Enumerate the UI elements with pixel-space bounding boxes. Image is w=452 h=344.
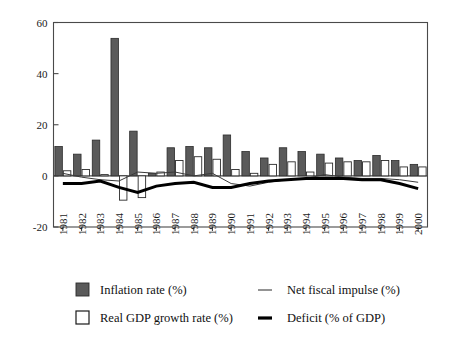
bar xyxy=(298,152,305,176)
bar xyxy=(101,175,108,176)
x-tick-label-1996: 1996 xyxy=(337,213,349,236)
x-tick-label-1983: 1983 xyxy=(94,213,106,236)
bar xyxy=(261,158,268,176)
y-tick-label: -20 xyxy=(33,221,48,233)
bar xyxy=(186,146,193,175)
x-tick-label-1998: 1998 xyxy=(375,213,387,236)
x-tick-label-2000: 2000 xyxy=(412,213,424,236)
bar xyxy=(373,155,380,175)
legend-entry-impulse: Net fiscal impulse (%) xyxy=(258,283,400,297)
bar xyxy=(269,164,276,176)
bar xyxy=(288,162,295,176)
bar xyxy=(194,157,201,176)
y-tick-label: 60 xyxy=(37,17,49,29)
bar xyxy=(354,161,361,176)
square-filled-icon xyxy=(76,283,89,296)
economic-indicators-chart: -200204060 19811982198319841985198619871… xyxy=(0,0,452,344)
x-tick-label-1989: 1989 xyxy=(206,213,218,236)
bar xyxy=(391,161,398,176)
bar xyxy=(111,38,118,176)
x-tick-label-1991: 1991 xyxy=(244,213,256,235)
bar xyxy=(92,140,99,176)
chart-legend: Inflation rate (%) Real GDP growth rate … xyxy=(76,283,400,325)
x-tick-label-1984: 1984 xyxy=(113,213,125,236)
bar xyxy=(419,167,426,176)
bar xyxy=(400,167,407,176)
legend-label-deficit: Deficit (% of GDP) xyxy=(287,311,385,325)
bar xyxy=(325,163,332,176)
x-tick-label-1999: 1999 xyxy=(393,213,405,236)
bar xyxy=(232,169,239,175)
bar xyxy=(279,148,286,176)
x-tick-label-1997: 1997 xyxy=(356,213,368,236)
x-tick-label-1995: 1995 xyxy=(319,213,331,236)
legend-label-gdp: Real GDP growth rate (%) xyxy=(100,311,233,325)
bar xyxy=(204,148,211,176)
bar xyxy=(130,131,137,176)
bar xyxy=(74,154,81,176)
bar xyxy=(213,159,220,176)
bar xyxy=(223,135,230,176)
bar xyxy=(242,152,249,176)
x-tick-label-1993: 1993 xyxy=(281,213,293,236)
bar xyxy=(363,162,370,176)
bar xyxy=(250,173,257,176)
plot-frame xyxy=(54,23,428,228)
x-tick-label-1988: 1988 xyxy=(188,213,200,236)
y-tick-label: 40 xyxy=(37,68,49,80)
legend-entry-gdp: Real GDP growth rate (%) xyxy=(76,311,233,325)
x-tick-label-1986: 1986 xyxy=(150,213,162,236)
x-tick-label-1987: 1987 xyxy=(169,213,181,236)
x-tick-label-1992: 1992 xyxy=(263,213,275,235)
square-open-icon xyxy=(76,311,89,324)
x-tick-label-1994: 1994 xyxy=(300,213,312,236)
bar xyxy=(381,161,388,176)
bar xyxy=(82,169,89,175)
bar xyxy=(55,146,62,175)
legend-label-inflation: Inflation rate (%) xyxy=(100,283,187,297)
bar xyxy=(410,164,417,176)
legend-label-impulse: Net fiscal impulse (%) xyxy=(287,283,400,297)
bar xyxy=(344,162,351,176)
x-tick-label-1982: 1982 xyxy=(76,213,88,235)
bar xyxy=(317,154,324,176)
chart-figure: -200204060 19811982198319841985198619871… xyxy=(0,0,452,344)
x-tick-label-1981: 1981 xyxy=(57,213,69,235)
x-tick-label-1985: 1985 xyxy=(132,213,144,236)
bar xyxy=(306,172,313,176)
legend-entry-inflation: Inflation rate (%) xyxy=(76,283,187,297)
plot-area-border xyxy=(54,23,428,228)
legend-entry-deficit: Deficit (% of GDP) xyxy=(258,311,385,325)
y-tick-label: 20 xyxy=(37,119,49,131)
y-tick-label: 0 xyxy=(42,170,48,182)
bar xyxy=(138,176,145,198)
bar xyxy=(335,158,342,176)
x-tick-label-1990: 1990 xyxy=(225,213,237,236)
